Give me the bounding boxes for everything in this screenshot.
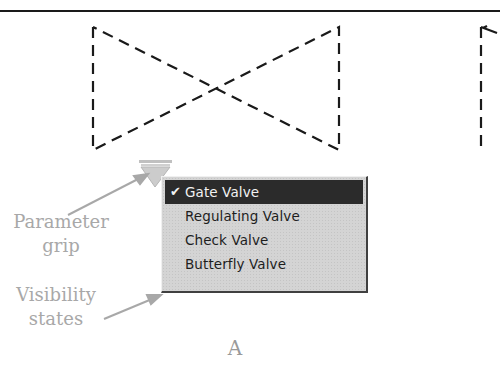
valve-symbol-icon[interactable]: [93, 27, 339, 150]
menu-item-label: Check Valve: [185, 232, 268, 248]
callout-line-2: states: [6, 307, 106, 331]
partial-symbol-icon: [481, 26, 497, 152]
callout-visibility-states: Visibility states: [6, 283, 106, 331]
menu-item-label: Regulating Valve: [185, 208, 300, 224]
callout-line-1: Visibility: [6, 283, 106, 307]
menu-item-check-valve[interactable]: Check Valve: [165, 228, 363, 252]
figure-label: A: [220, 336, 250, 360]
callout-parameter-grip: Parameter grip: [2, 210, 120, 258]
callout-arrow-visibility-states: [104, 295, 161, 319]
menu-item-label: Butterfly Valve: [185, 256, 286, 272]
menu-item-butterfly-valve[interactable]: Butterfly Valve: [165, 252, 363, 276]
menu-item-gate-valve[interactable]: ✔ Gate Valve: [165, 180, 363, 204]
menu-item-regulating-valve[interactable]: Regulating Valve: [165, 204, 363, 228]
visibility-states-menu[interactable]: ✔ Gate Valve Regulating Valve Check Valv…: [161, 176, 368, 293]
menu-item-label: Gate Valve: [185, 184, 259, 200]
callout-arrow-parameter-grip: [68, 174, 148, 215]
callout-line-1: Parameter: [2, 210, 120, 234]
checkmark-icon: ✔: [170, 180, 181, 204]
callout-line-2: grip: [2, 234, 120, 258]
